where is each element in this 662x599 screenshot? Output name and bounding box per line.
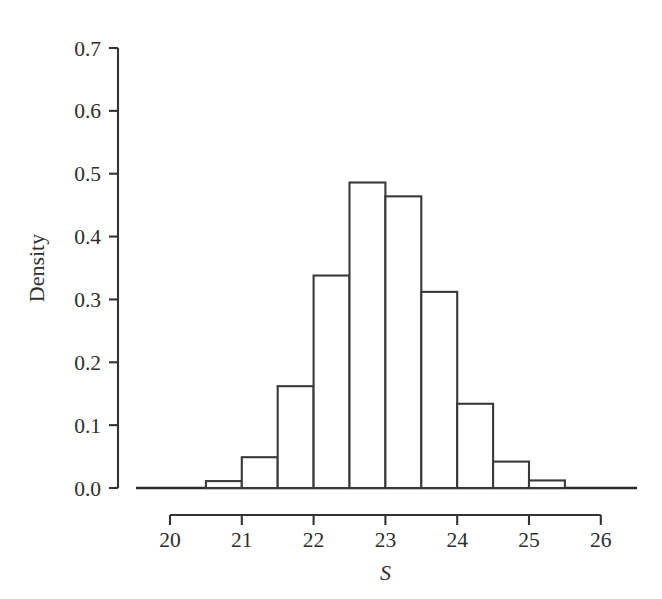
x-axis-tick-label: 23 [375,528,397,552]
y-axis-tick-label: 0.1 [74,414,101,438]
y-axis-tick-label: 0.6 [74,99,101,123]
y-axis: 0.00.10.20.30.40.50.60.7 [74,37,118,501]
y-axis-tick-label: 0.4 [74,225,101,249]
histogram-bar [421,292,457,488]
histogram-bars [136,183,637,488]
y-axis-tick-label: 0.2 [74,351,101,375]
x-axis: 20212223242526 [159,515,612,552]
x-axis-tick-label: 22 [303,528,325,552]
histogram-figure: 0.00.10.20.30.40.50.60.7 20212223242526 … [0,0,662,599]
histogram-bar [206,481,242,488]
histogram-bar [457,404,493,488]
x-axis-title: S [380,560,391,585]
plot-canvas: 0.00.10.20.30.40.50.60.7 20212223242526 … [0,0,662,599]
y-axis-tick-label: 0.3 [74,288,101,312]
histogram-bar [529,480,565,488]
histogram-bar [314,276,350,488]
x-axis-tick-label: 26 [590,528,612,552]
histogram-bar [242,457,278,488]
y-axis-title: Density [24,234,49,302]
y-axis-tick-label: 0.5 [74,162,101,186]
x-axis-tick-label: 20 [159,528,181,552]
histogram-bar [385,196,421,488]
x-axis-tick-label: 21 [231,528,253,552]
x-axis-tick-label: 24 [446,528,468,552]
y-axis-tick-label: 0.0 [74,477,101,501]
histogram-bar [493,462,529,488]
x-axis-tick-label: 25 [518,528,540,552]
histogram-bar [350,183,386,488]
histogram-bar [278,386,314,488]
y-axis-tick-label: 0.7 [74,37,101,61]
